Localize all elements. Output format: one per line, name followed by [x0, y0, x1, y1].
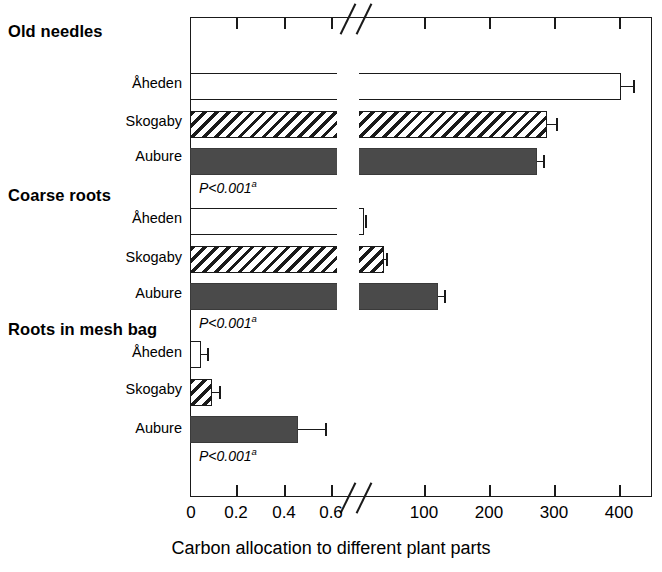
errorbar-cap-mesh-bag-aubure [325, 423, 327, 436]
pvalue-coarse-roots-sup: a [252, 313, 257, 324]
site-label-mesh-bag-aheden: Åheden [12, 344, 182, 360]
xtick-label-300: 300 [540, 503, 568, 523]
bar-old-needles-aubure-right [359, 148, 537, 175]
tick-bottom-300 [554, 485, 556, 496]
site-label-old-needles-aubure: Aubure [12, 148, 182, 164]
site-label-coarse-roots-aheden: Åheden [12, 210, 182, 226]
bar-old-needles-skogaby-right [359, 111, 547, 138]
tick-top-0.2 [236, 18, 238, 29]
tick-bottom-400 [619, 485, 621, 496]
errorbar-cap-old-needles-aheden [633, 80, 635, 93]
pvalue-mesh-bag: P<0.001a [199, 446, 257, 464]
xtick-label-100: 100 [410, 503, 438, 523]
bar-old-needles-aubure-left [190, 148, 337, 175]
errorbar-cap-coarse-roots-skogaby [386, 253, 388, 266]
tick-top-200 [489, 18, 491, 29]
tick-top-400 [619, 18, 621, 29]
errorbar-cap-old-needles-skogaby [556, 118, 558, 131]
errorbar-cap-coarse-roots-aubure [444, 290, 446, 303]
group-heading-old-needles: Old needles [8, 22, 103, 41]
bar-coarse-roots-skogaby-left [190, 246, 337, 273]
site-label-mesh-bag-skogaby: Skogaby [12, 381, 182, 397]
tick-bottom-0.2 [236, 485, 238, 496]
site-label-coarse-roots-skogaby: Skogaby [12, 249, 182, 265]
site-label-old-needles-skogaby: Skogaby [12, 113, 182, 129]
bar-mesh-bag-skogaby [190, 379, 212, 406]
errorbar-cap-mesh-bag-aheden [207, 348, 209, 361]
tick-bottom-200 [489, 485, 491, 496]
pvalue-old-needles-text: P<0.001 [199, 180, 252, 196]
pvalue-coarse-roots: P<0.001a [199, 313, 257, 331]
xtick-label-0.2: 0.2 [224, 503, 248, 523]
bar-coarse-roots-aubure-right [359, 283, 438, 310]
xtick-label-400: 400 [605, 503, 633, 523]
bar-coarse-roots-aubure-left [190, 283, 337, 310]
pvalue-old-needles-sup: a [252, 178, 257, 189]
xtick-label-200: 200 [475, 503, 503, 523]
tick-top-0.6 [331, 18, 333, 29]
bar-coarse-roots-skogaby-right [359, 246, 384, 273]
bar-mesh-bag-aheden [190, 341, 201, 368]
site-label-mesh-bag-aubure: Aubure [12, 420, 182, 436]
tick-top-300 [554, 18, 556, 29]
pvalue-coarse-roots-text: P<0.001 [199, 315, 252, 331]
errorbar-cap-coarse-roots-aheden [365, 215, 367, 228]
bar-old-needles-aheden-left [190, 73, 337, 100]
site-label-coarse-roots-aubure: Aubure [12, 285, 182, 301]
bar-mesh-bag-aubure [190, 416, 298, 443]
pvalue-mesh-bag-sup: a [252, 446, 257, 457]
tick-bottom-0.4 [284, 485, 286, 496]
group-heading-roots-in-mesh-bag: Roots in mesh bag [8, 320, 157, 339]
bar-coarse-roots-aheden-right [359, 208, 364, 235]
xtick-label-0.4: 0.4 [272, 503, 296, 523]
plot-area: P<0.001a P<0.001a P<0.001a [190, 17, 652, 497]
bar-old-needles-skogaby-left [190, 111, 337, 138]
bar-coarse-roots-aheden-left [190, 208, 337, 235]
x-axis-title: Carbon allocation to different plant par… [0, 538, 662, 559]
figure-chart: Old needles Coarse roots Roots in mesh b… [0, 0, 662, 572]
tick-bottom-0.6 [331, 485, 333, 496]
tick-top-0.4 [284, 18, 286, 29]
xtick-label-0: 0 [186, 503, 195, 523]
errorbar-cap-old-needles-aubure [543, 155, 545, 168]
tick-bottom-100 [424, 485, 426, 496]
pvalue-old-needles: P<0.001a [199, 178, 257, 196]
errorbar-cap-mesh-bag-skogaby [219, 386, 221, 399]
tick-top-100 [424, 18, 426, 29]
errorbar-mesh-bag-aubure [298, 429, 327, 431]
xtick-label-0.6: 0.6 [319, 503, 343, 523]
site-label-old-needles-aheden: Åheden [12, 75, 182, 91]
bar-old-needles-aheden-right [359, 73, 621, 100]
group-heading-coarse-roots: Coarse roots [8, 186, 111, 205]
pvalue-mesh-bag-text: P<0.001 [199, 448, 252, 464]
